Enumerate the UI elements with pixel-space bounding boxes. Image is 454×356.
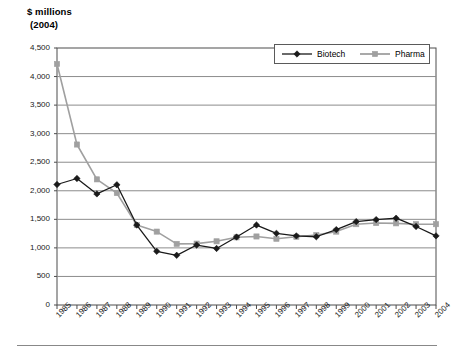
data-point-marker <box>273 230 279 236</box>
y-axis-tick-label: 500 <box>18 271 50 280</box>
series-biotech <box>54 175 439 258</box>
data-point-marker <box>393 215 399 221</box>
y-axis-tick-label: 4,500 <box>18 43 50 52</box>
data-point-marker <box>94 177 99 182</box>
series-line <box>57 179 436 256</box>
data-point-marker <box>174 241 179 246</box>
y-axis-tick-label: 1,000 <box>18 243 50 252</box>
data-point-marker <box>74 142 79 147</box>
y-axis-title-line1: $ millions <box>27 6 72 17</box>
y-axis-tick-label: 3,500 <box>18 100 50 109</box>
data-point-marker <box>433 222 438 227</box>
data-point-marker <box>173 252 179 258</box>
data-point-marker <box>253 222 259 228</box>
chart-container: $ millions (2004) 4,5004,0003,5003,0002,… <box>0 0 454 356</box>
data-point-marker <box>114 182 120 188</box>
plot-frame <box>57 48 436 305</box>
y-axis-tick-label: 1,500 <box>18 214 50 223</box>
y-axis-tick-label: 2,000 <box>18 186 50 195</box>
series-line <box>57 64 436 244</box>
data-point-marker <box>214 239 219 244</box>
data-point-marker <box>254 234 259 239</box>
data-point-marker <box>54 181 60 187</box>
data-point-marker <box>433 233 439 239</box>
data-point-marker <box>213 245 219 251</box>
legend-label-pharma: Pharma <box>395 49 425 59</box>
y-axis-title-line2: (2004) <box>30 19 58 30</box>
legend-marker-biotech <box>294 51 300 57</box>
data-point-marker <box>54 61 59 66</box>
y-axis-tick-label: 0 <box>18 300 50 309</box>
y-axis-tick-label: 4,000 <box>18 72 50 81</box>
bottom-divider <box>17 345 437 346</box>
legend-marker-pharma <box>372 51 377 56</box>
y-axis-tick-label: 3,000 <box>18 129 50 138</box>
data-point-marker <box>154 229 159 234</box>
legend-label-biotech: Biotech <box>317 49 345 59</box>
y-axis-tick-label: 2,500 <box>18 157 50 166</box>
data-point-marker <box>114 190 119 195</box>
